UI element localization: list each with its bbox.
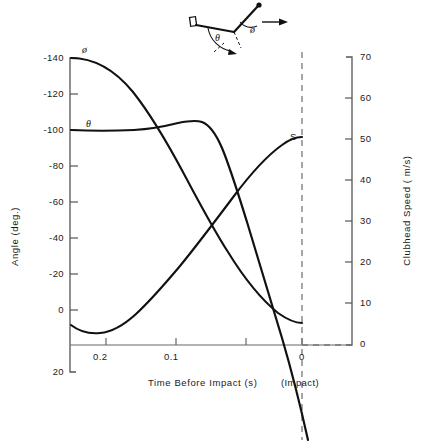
left-tick-label: -120 bbox=[30, 88, 64, 99]
y2-axis-title: Clubhead Speed ( m/s) bbox=[401, 141, 412, 281]
right-tick-label: 10 bbox=[360, 297, 371, 308]
curve-theta bbox=[71, 121, 308, 440]
right-tick-label: 20 bbox=[360, 256, 371, 267]
left-tick-label: -40 bbox=[30, 232, 64, 243]
right-tick-label: 60 bbox=[360, 92, 371, 103]
impact-annotation: (Impact) bbox=[281, 377, 319, 388]
right-tick-label: 40 bbox=[360, 174, 371, 185]
right-tick-label: 0 bbox=[360, 338, 366, 349]
x-tick-label: 0.1 bbox=[164, 351, 178, 362]
right-tick-label: 30 bbox=[360, 215, 371, 226]
right-tick-label: 50 bbox=[360, 133, 371, 144]
y-axis-title: Angle (deg.) bbox=[9, 202, 20, 272]
right-tick-label: 70 bbox=[360, 51, 371, 62]
curve-label-speed: S bbox=[290, 131, 296, 142]
left-tick-label: 0 bbox=[30, 304, 64, 315]
x-tick-label: 0 bbox=[299, 351, 305, 362]
left-tick-label: -80 bbox=[30, 160, 64, 171]
curve-label-phi: ø bbox=[82, 44, 87, 55]
left-tick-label: -100 bbox=[30, 124, 64, 135]
left-tick-label: 20 bbox=[30, 366, 64, 377]
curve-phi bbox=[71, 58, 302, 323]
left-tick-label: -60 bbox=[30, 196, 64, 207]
left-tick-label: -140 bbox=[30, 52, 64, 63]
curve-label-theta: θ bbox=[86, 118, 91, 129]
x-tick-label: 0.2 bbox=[93, 351, 107, 362]
chart-figure: ø θ bbox=[0, 0, 421, 448]
left-tick-label: -20 bbox=[30, 268, 64, 279]
x-axis-title: Time Before Impact (s) bbox=[148, 377, 257, 388]
